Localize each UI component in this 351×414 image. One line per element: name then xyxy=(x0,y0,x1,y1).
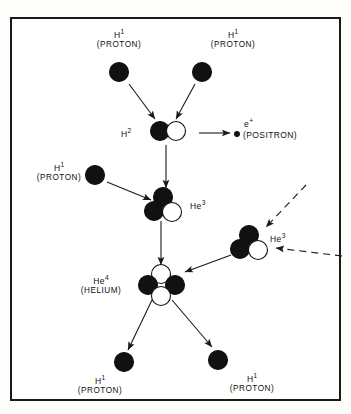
label-h2-superscript: 2 xyxy=(128,127,132,134)
particle-h1-left xyxy=(86,166,105,185)
label-he3-right: He3 xyxy=(270,232,285,244)
label-he3-right-superscript: 3 xyxy=(282,232,286,239)
label-he4-superscript: 4 xyxy=(105,274,109,281)
arrow-he3-right-to-he4 xyxy=(185,255,231,272)
label-h1-bottom-right: H1 (PROTON) xyxy=(230,372,274,395)
dashed-arrow-upper-right-to-he3-right xyxy=(266,185,306,227)
label-positron-name-wrap: (POSITRON) xyxy=(243,130,297,141)
label-h1-top-right-name: (PROTON) xyxy=(211,40,255,50)
label-he3-center-symbol: He xyxy=(190,201,202,211)
particle-he3-center-neutron xyxy=(163,203,182,222)
particle-h1-bottom-left xyxy=(115,353,134,372)
label-h1-top-left-name: (PROTON) xyxy=(97,40,141,50)
label-h1-left: H1 (PROTON) xyxy=(37,161,81,184)
particle-h1-top-left xyxy=(110,63,129,82)
particles-group xyxy=(86,63,268,372)
label-positron-name: (POSITRON) xyxy=(243,130,297,140)
label-h2-deuterium: H2 xyxy=(121,127,131,139)
label-h1-left-superscript: 1 xyxy=(60,161,64,168)
label-h1-top-right: H1 (PROTON) xyxy=(211,28,255,51)
particle-h1-top-right xyxy=(193,63,212,82)
label-he3-center: He3 xyxy=(190,199,205,211)
label-he4-helium: He4 (HELIUM) xyxy=(81,274,121,297)
arrow-he4-to-h1-bottom-left xyxy=(128,300,152,350)
label-he3-center-superscript: 3 xyxy=(202,199,206,206)
arrow-h1-top-left-to-h2 xyxy=(129,84,155,119)
label-h1-top-left: H1 (PROTON) xyxy=(97,28,141,51)
label-h1-bottom-left-name: (PROTON) xyxy=(78,386,122,396)
arrow-h1-top-right-to-h2 xyxy=(176,84,195,119)
particle-he3-right-proton-left xyxy=(231,240,250,259)
label-h1-bottom-right-name: (PROTON) xyxy=(230,384,274,394)
label-h1-bottom-left: H1 (PROTON) xyxy=(78,374,122,397)
label-he4-symbol: He xyxy=(93,276,105,286)
arrow-he4-to-h1-bottom-right xyxy=(172,300,212,347)
particle-h2-neutron xyxy=(167,122,186,141)
label-he3-right-symbol: He xyxy=(270,234,282,244)
dashed-arrow-right-to-he3-right xyxy=(276,248,342,256)
arrows-group xyxy=(107,84,342,350)
particle-positron xyxy=(235,132,240,137)
label-positron-superscript: + xyxy=(249,117,253,124)
label-h1-top-right-superscript: 1 xyxy=(234,28,238,35)
particle-h1-bottom-right xyxy=(209,351,228,370)
fusion-diagram-figure: H1 (PROTON) H1 (PROTON) H2 e+ (POSITRON)… xyxy=(0,0,351,414)
arrow-h1-left-to-he3 xyxy=(107,182,151,200)
particle-he4-neutron-bottom xyxy=(152,287,171,306)
label-h1-left-name: (PROTON) xyxy=(37,173,81,183)
label-h1-bottom-left-superscript: 1 xyxy=(101,374,105,381)
particle-he3-right-neutron xyxy=(249,241,268,260)
label-he4-name: (HELIUM) xyxy=(81,286,121,296)
label-h1-top-left-superscript: 1 xyxy=(120,28,124,35)
label-positron: e+ xyxy=(244,117,253,129)
label-h1-bottom-right-superscript: 1 xyxy=(253,372,257,379)
particle-he3-center-proton-left xyxy=(145,202,164,221)
diagram-graphics-layer xyxy=(0,0,351,414)
